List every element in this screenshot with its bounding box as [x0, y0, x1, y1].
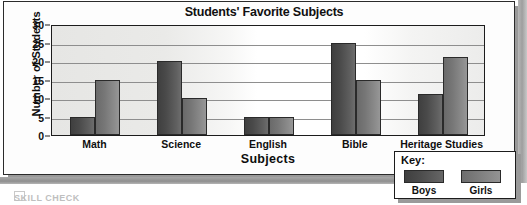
- bar-science-boys: [157, 61, 182, 135]
- x-label-math: Math: [82, 138, 107, 150]
- plot-area: [51, 25, 485, 136]
- y-tick-label-10: 10: [4, 93, 44, 105]
- bar-science-girls: [182, 98, 207, 135]
- bar-bible-girls: [356, 80, 381, 136]
- y-tick-mark-25: [45, 43, 50, 44]
- y-tick-label-30: 30: [4, 19, 44, 31]
- legend-key-box: Key: Boys Girls: [394, 151, 516, 199]
- worksheet-page: Students' Favorite Subjects Number of St…: [0, 0, 527, 205]
- x-label-bible: Bible: [342, 138, 368, 150]
- x-label-heritage-studies: Heritage Studies: [400, 138, 483, 150]
- y-tick-mark-0: [45, 136, 50, 137]
- y-tick-mark-15: [45, 80, 50, 81]
- legend-title: Key:: [401, 154, 425, 166]
- y-tick-label-20: 20: [4, 56, 44, 68]
- bar-bible-boys: [331, 43, 356, 136]
- y-tick-mark-20: [45, 62, 50, 63]
- y-tick-label-25: 25: [4, 38, 44, 50]
- bar-math-girls: [95, 80, 120, 136]
- bar-heritage-studies-boys: [418, 94, 443, 135]
- legend-swatch-girls: [461, 170, 501, 183]
- y-tick-mark-10: [45, 99, 50, 100]
- y-tick-label-0: 0: [4, 130, 44, 142]
- y-tick-mark-30: [45, 25, 50, 26]
- scan-band-artifact: [0, 177, 420, 184]
- bar-group: [52, 26, 484, 135]
- y-tick-mark-5: [45, 117, 50, 118]
- bar-english-boys: [244, 117, 269, 136]
- chart-card: Students' Favorite Subjects Number of St…: [3, 1, 515, 175]
- chart-title: Students' Favorite Subjects: [44, 5, 484, 19]
- legend-swatch-boys: [404, 170, 444, 183]
- y-tick-label-5: 5: [4, 112, 44, 124]
- legend-label-girls: Girls: [458, 185, 504, 196]
- x-label-science: Science: [161, 138, 201, 150]
- bar-math-boys: [70, 117, 95, 136]
- bar-heritage-studies-girls: [443, 57, 468, 135]
- y-axis-tick-labels: 051015202530: [4, 2, 51, 136]
- legend-label-boys: Boys: [401, 185, 447, 196]
- x-label-english: English: [249, 138, 287, 150]
- bar-english-girls: [269, 117, 294, 136]
- y-tick-label-15: 15: [4, 75, 44, 87]
- footer-skill-check-label: SKILL CHECK: [14, 193, 80, 203]
